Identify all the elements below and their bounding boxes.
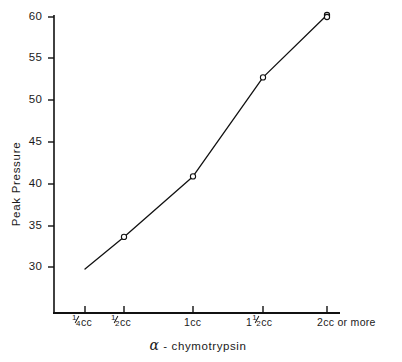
x-tick-label-half-cc: 12cc	[111, 316, 131, 328]
data-point-1	[121, 234, 126, 239]
x-tick-unit-0: cc	[81, 316, 92, 328]
x-tick-unit-2: cc	[190, 316, 201, 328]
x-tick-unit-4: cc or more	[323, 316, 376, 328]
data-point-5	[324, 14, 329, 19]
data-point-markers	[121, 12, 329, 239]
x-tick-label-two-cc-or-more: 2cc or more	[317, 316, 376, 328]
data-point-2	[190, 174, 195, 179]
y-tick-label-30: 30	[16, 260, 42, 272]
x-tick-label-one-cc: 1cc	[184, 316, 201, 328]
y-tick-label-55: 55	[16, 51, 42, 63]
x-tick-label-one-and-half-cc: 112cc	[246, 316, 272, 328]
x-tick-label-quarter-cc: 14cc	[72, 316, 92, 328]
line-chart-plot	[0, 0, 402, 362]
fraction-one-quarter: 14	[72, 316, 81, 328]
data-line-peak-pressure	[85, 15, 327, 269]
y-axis-title: Peak Pressure	[10, 134, 22, 234]
x-tick-unit-3: cc	[261, 316, 272, 328]
x-axis-title: α - chymotrypsin	[53, 337, 343, 353]
x-tick-unit-1: cc	[120, 316, 131, 328]
fraction-one-half-2: 12	[252, 316, 261, 328]
fraction-one-half: 12	[111, 316, 120, 328]
chart-figure: 60 55 50 45 40 35 30 14cc 12cc 1cc 112cc…	[0, 0, 402, 362]
data-point-3	[260, 75, 265, 80]
alpha-symbol: α	[149, 337, 159, 353]
y-tick-label-60: 60	[16, 10, 42, 22]
x-axis-title-text: - chymotrypsin	[163, 340, 246, 352]
x-axis-ticks	[85, 306, 327, 313]
y-tick-label-50: 50	[16, 93, 42, 105]
y-axis-ticks	[48, 17, 54, 267]
